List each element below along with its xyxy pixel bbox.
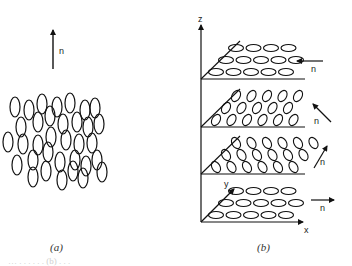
cholesteric-molecule [254, 57, 269, 64]
cholesteric-molecule [230, 136, 243, 150]
cholesteric-molecule [236, 57, 251, 64]
z-axis-label: z [198, 14, 203, 24]
cholesteric-molecule [281, 188, 296, 195]
cholesteric-molecule [256, 160, 269, 174]
y-axis: y [201, 179, 234, 222]
cholesteric-molecule [292, 89, 305, 103]
nematic-molecule [3, 132, 13, 152]
cholesteric-molecule [209, 69, 224, 76]
z-axis: z [198, 14, 203, 222]
cholesteric-molecule [271, 200, 286, 207]
cholesteric-molecule [279, 212, 294, 219]
nematic-molecule [55, 152, 65, 172]
nematic-molecules [3, 93, 107, 190]
y-axis-label: y [224, 179, 229, 189]
cholesteric-molecule [210, 160, 223, 174]
cholesteric-molecule [279, 69, 294, 76]
cholesteric-molecule [266, 101, 279, 115]
director-label-a: n [59, 46, 64, 56]
cholesteric-molecule [229, 188, 244, 195]
layer-depth-edge [201, 41, 240, 79]
cholesteric-molecule [210, 113, 223, 127]
cholesteric-molecule [264, 188, 279, 195]
cholesteric-molecule [251, 101, 264, 115]
cholesteric-layers: nnnn [201, 41, 334, 219]
cholesteric-molecule [256, 113, 269, 127]
liquid-crystal-figure: n (a) z x y nnnn (b) … . . . . . . (b) .… [0, 0, 352, 266]
cholesteric-molecule [236, 200, 251, 207]
nematic-molecule [78, 168, 88, 188]
cholesteric-molecule [209, 212, 224, 219]
cholesteric-molecule [254, 200, 269, 207]
cholesteric-molecule [246, 188, 261, 195]
layer-lower-middle: n [201, 136, 327, 174]
cholesteric-molecule [245, 89, 258, 103]
x-axis-label: x [304, 225, 309, 235]
cholesteric-molecule [261, 89, 274, 103]
cholesteric-molecule [272, 113, 285, 127]
director-arrow-lower-middle: n [314, 146, 327, 168]
cholesteric-molecule [225, 113, 238, 127]
cholesteric-molecule [272, 160, 285, 174]
cholesteric-molecule [220, 148, 233, 162]
cholesteric-molecule [244, 212, 259, 219]
nematic-molecule [81, 156, 91, 176]
cholesteric-molecule [266, 148, 279, 162]
nematic-molecule [83, 117, 93, 137]
cholesteric-molecule [226, 69, 241, 76]
nematic-molecule [41, 161, 51, 181]
cholesteric-molecule [282, 101, 295, 115]
director-arrow-bottom: n [311, 200, 334, 213]
nematic-molecule [57, 170, 67, 190]
director-arrow-a: n [53, 30, 64, 69]
director-label: n [320, 203, 325, 213]
cholesteric-molecule [289, 200, 304, 207]
nematic-molecule [72, 112, 82, 132]
cholesteric-molecule [241, 113, 254, 127]
nematic-molecule [18, 134, 28, 154]
cholesteric-molecule [225, 160, 238, 174]
cholesteric-molecule [235, 148, 248, 162]
nematic-molecule [24, 100, 34, 120]
x-axis: x [201, 222, 309, 235]
footer-text-fragment: … . . . . . . (b) . . . [8, 256, 70, 266]
director-label: n [320, 157, 325, 167]
cholesteric-molecule [289, 57, 304, 64]
cholesteric-molecule [282, 148, 295, 162]
cholesteric-molecule [220, 101, 233, 115]
nematic-molecule [52, 97, 62, 117]
cholesteric-molecule [246, 45, 261, 52]
director-arrow-upper-middle: n [313, 104, 331, 126]
nematic-molecule [94, 114, 104, 134]
caption-b: (b) [257, 241, 270, 254]
cholesteric-molecule [245, 136, 258, 150]
cholesteric-molecule [235, 101, 248, 115]
cholesteric-molecule [292, 136, 305, 150]
cholesteric-molecule [241, 160, 254, 174]
cholesteric-molecule [261, 212, 276, 219]
nematic-molecule [70, 150, 80, 170]
cholesteric-molecule [287, 160, 300, 174]
layer-upper-middle: n [201, 89, 331, 127]
cholesteric-molecule [244, 69, 259, 76]
cholesteric-molecule [281, 45, 296, 52]
cholesteric-molecule [264, 45, 279, 52]
nematic-molecule [92, 150, 102, 170]
layer-depth-edge [201, 89, 240, 127]
nematic-molecule [68, 161, 78, 181]
cholesteric-molecule [261, 69, 276, 76]
caption-a: (a) [50, 241, 63, 254]
director-label: n [314, 116, 319, 126]
nematic-molecule [90, 98, 100, 118]
cholesteric-molecule [226, 212, 241, 219]
director-label: n [311, 64, 316, 74]
panel-a: n (a) [3, 30, 107, 254]
nematic-molecule [10, 97, 20, 117]
cholesteric-molecule [297, 148, 310, 162]
nematic-molecule [45, 106, 55, 126]
panel-b: z x y nnnn (b) [198, 14, 334, 254]
cholesteric-molecule [287, 113, 300, 127]
layer-top: n [201, 41, 323, 79]
cholesteric-molecule [261, 136, 274, 150]
cholesteric-molecule [276, 89, 289, 103]
